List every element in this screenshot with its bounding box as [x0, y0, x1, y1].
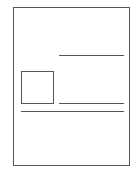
canvas	[0, 0, 138, 182]
image-placeholder-icon	[21, 71, 54, 104]
text-line-full-width	[21, 111, 124, 112]
text-line-top	[59, 55, 124, 56]
text-line-beside-image	[59, 103, 124, 104]
